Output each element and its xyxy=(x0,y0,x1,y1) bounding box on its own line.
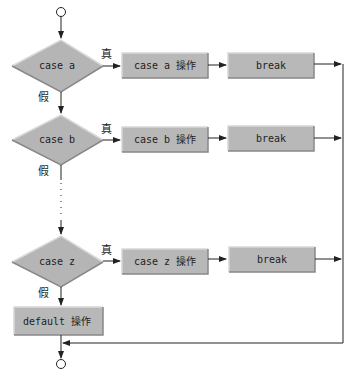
break-label: break xyxy=(257,254,287,265)
break-label: break xyxy=(256,133,286,144)
decision-label: case b xyxy=(39,134,75,145)
true-label: 真 xyxy=(101,47,112,61)
false-label: 假 xyxy=(38,90,49,104)
default-group: default 操作 xyxy=(14,307,103,335)
action-label: case a 操作 xyxy=(134,59,196,71)
action-label: case b 操作 xyxy=(134,133,196,145)
break-label: break xyxy=(256,60,286,71)
true-label: 真 xyxy=(101,122,112,136)
end-node xyxy=(57,360,66,369)
action-label: case z 操作 xyxy=(134,255,196,267)
start-node xyxy=(57,8,66,17)
decision-label: case z xyxy=(39,256,75,267)
true-label: 真 xyxy=(101,243,112,257)
false-label: 假 xyxy=(38,286,49,300)
decision-label: case a xyxy=(39,60,75,71)
case-a-group: case a 真 case a 操作 break 假 xyxy=(12,40,341,113)
case-z-group: case z 真 case z 操作 break 假 xyxy=(12,236,341,305)
switch-flowchart: case a 真 case a 操作 break 假 case b 真 case… xyxy=(0,0,351,375)
case-b-group: case b 真 case b 操作 break 假 xyxy=(12,115,341,234)
default-action-label: default 操作 xyxy=(23,315,91,327)
false-label: 假 xyxy=(38,164,49,178)
